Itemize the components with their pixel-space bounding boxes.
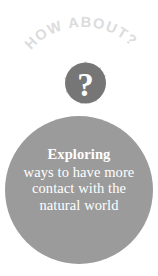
question-mark-icon: ? (77, 67, 94, 103)
radiating-arrows-graphic: ? HOW ABOUT? (0, 0, 158, 276)
infographic-canvas: ? HOW ABOUT? Exploring ways to have more… (0, 0, 158, 276)
callout-headline: Exploring (5, 146, 153, 163)
callout-line-3: natural world (5, 197, 153, 214)
callout-line-1: ways to have more (5, 164, 153, 181)
callout-text-block: Exploring ways to have more contact with… (5, 146, 153, 213)
callout-line-2: contact with the (5, 180, 153, 197)
arc-heading: HOW ABOUT? (21, 14, 140, 53)
